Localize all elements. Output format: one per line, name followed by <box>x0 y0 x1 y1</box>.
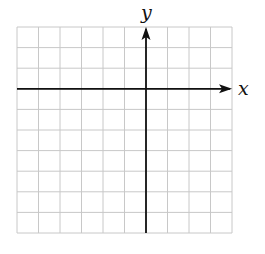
grid-lines <box>17 27 232 233</box>
x-axis-label: x <box>238 77 249 99</box>
y-axis-label: y <box>140 1 152 23</box>
coordinate-plane: x y <box>0 0 265 254</box>
